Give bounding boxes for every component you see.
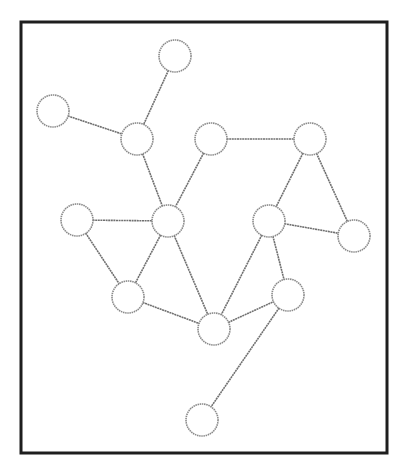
node-A (159, 40, 191, 72)
node-D (195, 123, 227, 155)
node-B (37, 95, 69, 127)
graph-diagram (0, 0, 405, 473)
node-J (112, 281, 144, 313)
node-C (121, 123, 153, 155)
node-M (186, 404, 218, 436)
node-I (338, 220, 370, 252)
diagram-frame (21, 22, 387, 453)
node-F (61, 204, 93, 236)
node-K (198, 313, 230, 345)
node-L (272, 279, 304, 311)
node-H (253, 205, 285, 237)
node-G (152, 205, 184, 237)
node-E (294, 123, 326, 155)
